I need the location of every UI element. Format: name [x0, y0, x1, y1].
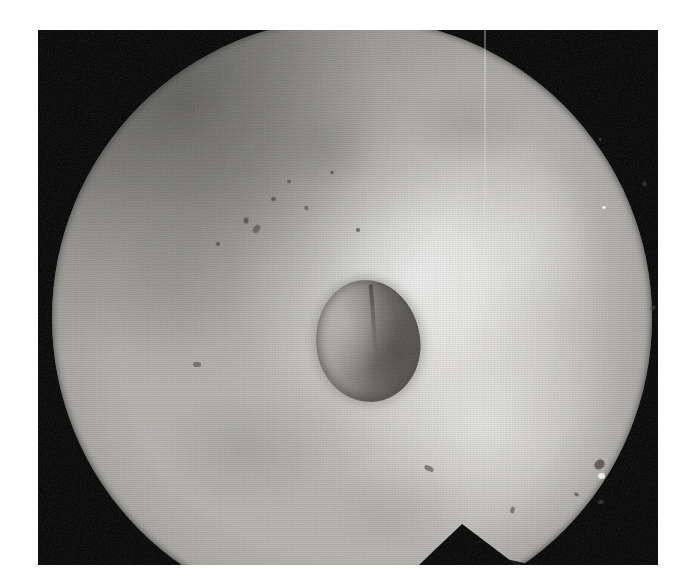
- debris-speck: [193, 362, 201, 367]
- figure-root: otoscopic view of tympanic membrane with…: [0, 0, 694, 587]
- illuminated-field-description: Bright near-circular endoscopic light fi…: [0, 0, 1, 1]
- illuminated-field-clip: [38, 30, 658, 565]
- figure-modality: endoscopic-grayscale-photograph: [0, 0, 1, 1]
- specular-highlight-description: Brightest light reflex in the upper-righ…: [0, 0, 1, 1]
- photo-frame: [38, 30, 658, 565]
- specular-speck-highlight: [602, 206, 606, 209]
- bottom-notch-description: Dark triangular wedge intruding into the…: [0, 0, 1, 1]
- central-lesion: [308, 273, 428, 408]
- figure-subject-description: otoscopic view of tympanic membrane with…: [0, 0, 1, 1]
- debris-speck: [244, 218, 249, 224]
- vertical-scan-artifact: [484, 30, 486, 330]
- central-lesion-description: Dark rounded-oval defect near the centre…: [0, 0, 1, 1]
- specular-speck-highlight: [598, 473, 605, 479]
